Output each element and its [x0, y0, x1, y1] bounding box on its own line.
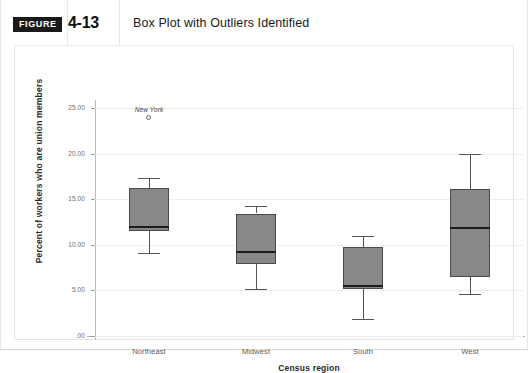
whisker-upper — [149, 178, 150, 188]
y-tick-label: .00 — [51, 332, 85, 339]
whisker-upper — [470, 154, 471, 190]
y-tick-label: 5.00 — [51, 286, 85, 293]
y-tick-mark — [91, 336, 95, 337]
outlier-label: New York — [114, 106, 184, 113]
median-line-midwest — [236, 251, 276, 253]
median-line-west — [450, 227, 490, 229]
whisker-cap-lower — [352, 319, 374, 320]
whisker-cap-upper — [245, 206, 267, 207]
figure-number: 4-13 — [68, 14, 99, 32]
median-line-south — [343, 285, 383, 287]
figure-title: Box Plot with Outliers Identified — [133, 16, 309, 30]
gridline — [95, 336, 523, 337]
box-midwest — [236, 214, 276, 264]
chart-container: Percent of workers who are union members… — [14, 45, 514, 340]
whisker-lower — [470, 277, 471, 294]
whisker-cap-lower — [138, 253, 160, 254]
x-tick-label-northeast: Northeast — [99, 347, 199, 356]
whisker-cap-upper — [138, 178, 160, 179]
whisker-lower — [256, 264, 257, 289]
figure-header: FIGURE 4-13 Box Plot with Outliers Ident… — [0, 14, 528, 38]
x-tick-label-west: West — [420, 347, 520, 356]
y-tick-mark — [91, 245, 95, 246]
x-tick-label-south: South — [313, 347, 413, 356]
gridline — [95, 290, 523, 291]
y-tick-label: 10.00 — [51, 241, 85, 248]
box-northeast — [129, 188, 169, 231]
y-axis-title: Percent of workers who are union members — [34, 21, 44, 321]
outlier-marker — [146, 115, 151, 120]
y-tick-mark — [91, 290, 95, 291]
whisker-cap-upper — [352, 236, 374, 237]
whisker-cap-upper — [459, 154, 481, 155]
y-tick-mark — [91, 154, 95, 155]
whisker-upper — [256, 206, 257, 213]
y-tick-label: 15.00 — [51, 195, 85, 202]
page-border-left — [0, 0, 1, 350]
whisker-cap-lower — [459, 294, 481, 295]
box-south — [343, 247, 383, 289]
whisker-lower — [363, 289, 364, 319]
whisker-upper — [363, 236, 364, 247]
x-tick-label-midwest: Midwest — [206, 347, 306, 356]
y-tick-mark — [91, 199, 95, 200]
whisker-cap-lower — [245, 289, 267, 290]
y-tick-mark — [91, 108, 95, 109]
y-tick-label: 20.00 — [51, 150, 85, 157]
header-rule-right — [119, 0, 120, 48]
x-axis-title: Census region — [95, 363, 523, 373]
median-line-northeast — [129, 226, 169, 228]
whisker-lower — [149, 231, 150, 253]
y-tick-label: 25.00 — [51, 104, 85, 111]
box-west — [450, 189, 490, 277]
